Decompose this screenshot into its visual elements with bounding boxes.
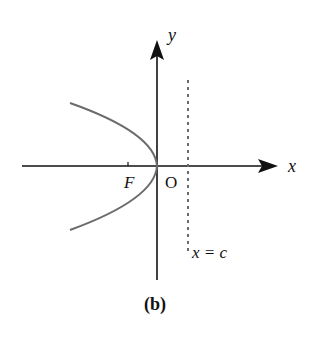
x-axis-label: x bbox=[288, 157, 296, 175]
directrix-label: x = c bbox=[192, 244, 227, 261]
y-axis-label: y bbox=[168, 26, 176, 44]
parabola-diagram bbox=[0, 0, 312, 338]
origin-label: O bbox=[165, 174, 177, 191]
focus-label: F bbox=[124, 174, 134, 191]
figure-caption: (b) bbox=[144, 295, 166, 313]
